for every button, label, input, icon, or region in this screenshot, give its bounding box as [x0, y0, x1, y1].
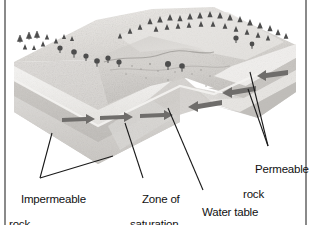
figure-container: Impermeable rock Zone of saturation Wate… [0, 0, 313, 225]
label-zone-of-saturation-line1: Zone of [142, 193, 180, 205]
label-impermeable-rock-line2: rock [9, 218, 86, 225]
label-impermeable-rock-line1: Impermeable [21, 193, 86, 205]
leader-impermeable-b [40, 156, 113, 178]
label-zone-of-saturation: Zone of saturation [130, 180, 180, 225]
label-permeable-rock-line2: rock [243, 188, 309, 201]
label-permeable-rock-line1: Permeable [255, 163, 309, 175]
leader-impermeable-a [40, 133, 52, 178]
label-permeable-rock: Permeable rock [243, 150, 309, 225]
label-zone-of-saturation-line2: saturation [130, 218, 180, 225]
label-impermeable-rock: Impermeable rock [9, 180, 86, 225]
leader-water-table [168, 108, 203, 190]
